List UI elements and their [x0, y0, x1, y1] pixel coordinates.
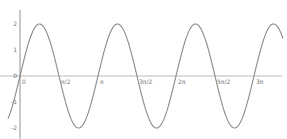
y-tick-label: 0: [13, 72, 17, 79]
y-tick-label: 2: [13, 20, 17, 27]
x-tick-label: 5π/2: [217, 78, 230, 85]
x-tick-label: π/2: [61, 78, 71, 85]
x-tick-labels: 0π/2π3π/22π5π/23π: [22, 78, 264, 85]
sine-chart: 210-1-2 0π/2π3π/22π5π/23π: [0, 0, 287, 139]
x-tick-label: 3π/2: [139, 78, 152, 85]
x-tick-label: 3π: [256, 78, 264, 85]
y-tick-label: 1: [13, 46, 17, 53]
y-tick-label: -2: [11, 124, 17, 131]
x-tick-label: 2π: [178, 78, 186, 85]
x-tick-label: 0: [22, 78, 26, 85]
x-tick-label: π: [100, 78, 104, 85]
